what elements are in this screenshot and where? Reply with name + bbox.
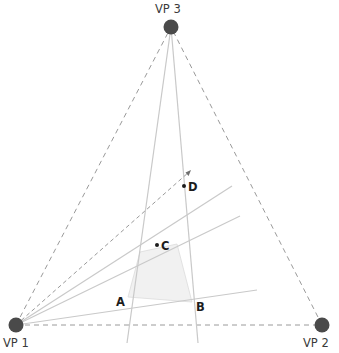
vp1-dot <box>9 318 24 333</box>
vp3-label: VP 3 <box>155 2 181 16</box>
perspective-diagram: VP 1 VP 2 VP 3 A B C D <box>0 0 339 353</box>
point-a-label: A <box>116 295 125 309</box>
vp2-dot <box>315 318 330 333</box>
point-c-dot <box>155 243 159 247</box>
vp1-label: VP 1 <box>3 336 29 350</box>
triangle-edge-vp2-vp3 <box>171 27 322 325</box>
point-d-label: D <box>188 180 198 194</box>
diagram-canvas: VP 1 VP 2 VP 3 A B C D <box>0 0 339 353</box>
point-d-dot <box>182 184 186 188</box>
shaded-face <box>128 244 192 302</box>
vp1-convergence-lines <box>16 186 257 325</box>
dashed-ray-arrow-icon <box>186 170 192 176</box>
vp2-label: VP 2 <box>303 336 329 350</box>
point-b-label: B <box>196 300 205 314</box>
interior-point-markers <box>155 184 186 247</box>
point-c-label: C <box>161 239 169 253</box>
vp3-dot <box>164 20 179 35</box>
